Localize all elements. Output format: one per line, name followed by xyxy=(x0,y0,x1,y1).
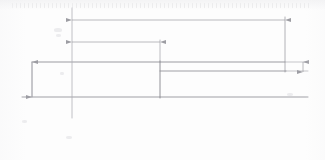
drawing-vector-layer xyxy=(0,0,325,160)
technical-drawing-canvas xyxy=(0,0,325,160)
